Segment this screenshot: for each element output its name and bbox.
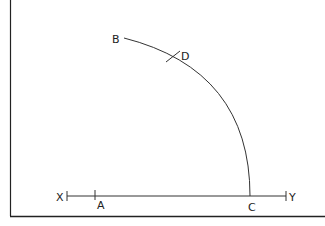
label-a: A (97, 199, 105, 212)
arc-mark-d (166, 51, 180, 62)
label-d: D (181, 50, 189, 63)
label-c: C (248, 201, 256, 214)
construction-diagram: X Y A B C D (0, 0, 325, 226)
label-b: B (112, 33, 120, 46)
label-x: X (56, 191, 64, 204)
label-y: Y (288, 191, 296, 204)
